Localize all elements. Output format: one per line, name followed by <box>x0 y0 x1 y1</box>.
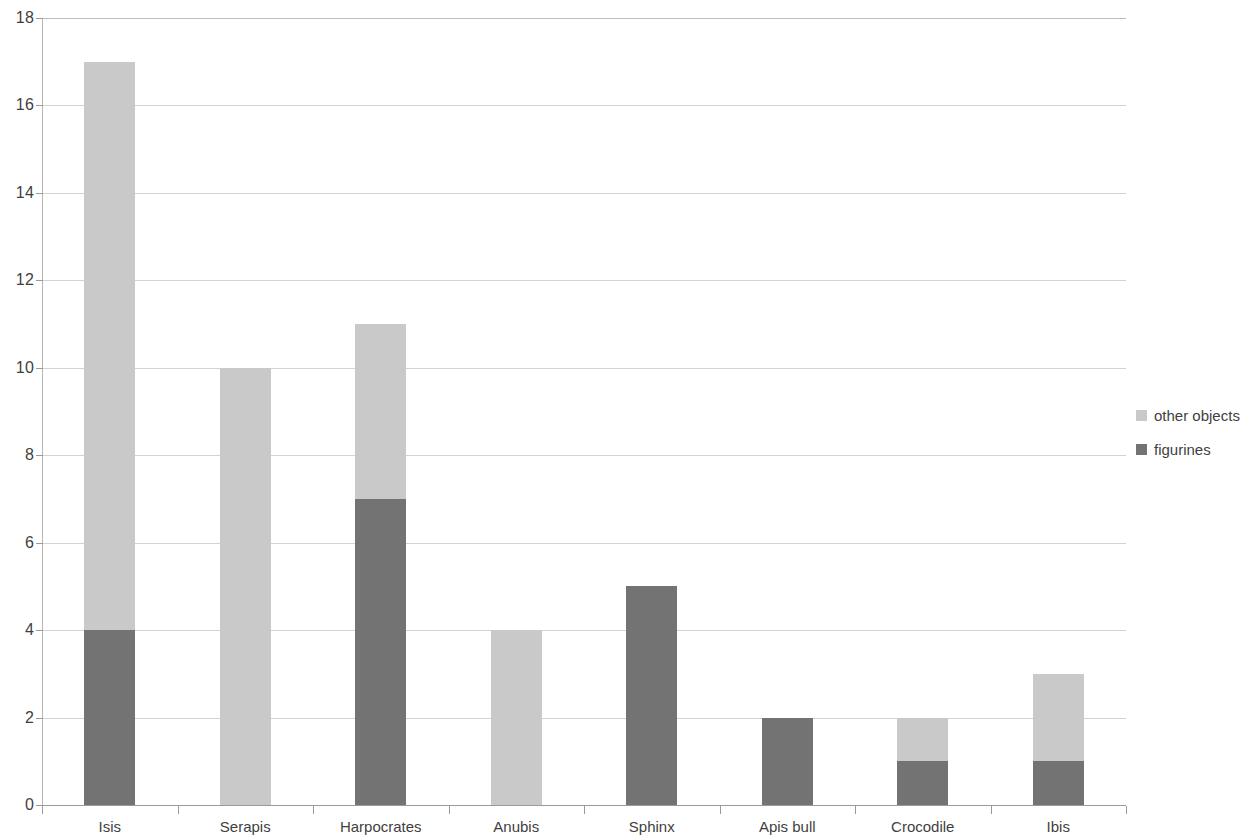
x-axis-tick-label-sphinx: Sphinx <box>629 818 675 835</box>
bar-segment-figurines[interactable] <box>626 586 677 805</box>
x-axis-tick-mark <box>178 806 179 814</box>
gridline <box>42 718 1126 719</box>
x-axis-tick-label-crocodile: Crocodile <box>891 818 954 835</box>
y-axis-tick-label: 6 <box>2 535 34 551</box>
x-axis-tick-label-anubis: Anubis <box>493 818 539 835</box>
x-axis-tick-mark <box>1126 806 1127 814</box>
bar-segment-figurines[interactable] <box>1033 761 1084 805</box>
y-axis-tick-label: 0 <box>2 797 34 813</box>
legend-label: other objects <box>1154 407 1240 424</box>
legend-swatch-icon <box>1136 444 1147 455</box>
x-axis-tick-mark <box>720 806 721 814</box>
bar-segment-other-objects[interactable] <box>897 718 948 762</box>
stacked-bar-chart: 024681012141618 IsisSerapisHarpocratesAn… <box>0 0 1249 840</box>
bar-segment-other-objects[interactable] <box>84 62 135 630</box>
y-axis-tick-mark <box>36 368 43 369</box>
y-axis-tick-label: 10 <box>2 360 34 376</box>
gridline <box>42 630 1126 631</box>
y-axis-tick-label: 4 <box>2 622 34 638</box>
gridline <box>42 18 1126 19</box>
gridline <box>42 193 1126 194</box>
plot-area <box>42 18 1126 805</box>
bar-apis-bull[interactable] <box>762 18 813 805</box>
x-axis-tick-label-isis: Isis <box>99 818 122 835</box>
x-axis-tick-label-harpocrates: Harpocrates <box>340 818 422 835</box>
bar-harpocrates[interactable] <box>355 18 406 805</box>
bar-segment-other-objects[interactable] <box>1033 674 1084 761</box>
bar-sphinx[interactable] <box>626 18 677 805</box>
y-axis-tick-label: 18 <box>2 10 34 26</box>
bar-segment-other-objects[interactable] <box>355 324 406 499</box>
y-axis-tick-mark <box>36 18 43 19</box>
y-axis-tick-label: 16 <box>2 97 34 113</box>
bar-segment-figurines[interactable] <box>762 718 813 805</box>
y-axis-tick-label: 2 <box>2 710 34 726</box>
y-axis-tick-mark <box>36 280 43 281</box>
y-axis-tick-mark <box>36 630 43 631</box>
bar-segment-figurines[interactable] <box>897 761 948 805</box>
bar-segment-other-objects[interactable] <box>220 368 271 805</box>
gridline <box>42 368 1126 369</box>
bar-isis[interactable] <box>84 18 135 805</box>
legend-item-figurines[interactable]: figurines <box>1136 432 1246 466</box>
y-axis-tick-label: 12 <box>2 272 34 288</box>
gridline <box>42 455 1126 456</box>
x-axis-tick-mark <box>584 806 585 814</box>
bar-segment-figurines[interactable] <box>355 499 406 805</box>
bar-segment-other-objects[interactable] <box>491 630 542 805</box>
y-axis-tick-mark <box>36 543 43 544</box>
y-axis-tick-mark <box>36 105 43 106</box>
bar-serapis[interactable] <box>220 18 271 805</box>
gridline <box>42 280 1126 281</box>
y-axis-tick-labels: 024681012141618 <box>0 0 34 840</box>
y-axis-tick-mark <box>36 718 43 719</box>
chart-legend: other objectsfigurines <box>1136 398 1246 466</box>
y-axis-tick-mark <box>36 193 43 194</box>
gridline <box>42 543 1126 544</box>
y-axis-tick-mark <box>36 455 43 456</box>
y-axis-tick-label: 8 <box>2 447 34 463</box>
legend-item-other-objects[interactable]: other objects <box>1136 398 1246 432</box>
gridline <box>42 105 1126 106</box>
x-axis-tick-mark <box>313 806 314 814</box>
bar-segment-figurines[interactable] <box>84 630 135 805</box>
x-axis-tick-mark <box>449 806 450 814</box>
legend-label: figurines <box>1154 441 1211 458</box>
legend-swatch-icon <box>1136 410 1147 421</box>
y-axis-tick-mark <box>36 805 43 806</box>
x-axis-tick-label-apis-bull: Apis bull <box>759 818 816 835</box>
bar-anubis[interactable] <box>491 18 542 805</box>
x-axis-tick-label-ibis: Ibis <box>1047 818 1070 835</box>
x-axis-tick-label-serapis: Serapis <box>220 818 271 835</box>
x-axis-tick-mark <box>42 806 43 814</box>
bar-ibis[interactable] <box>1033 18 1084 805</box>
bar-crocodile[interactable] <box>897 18 948 805</box>
x-axis-tick-mark <box>855 806 856 814</box>
y-axis-tick-label: 14 <box>2 185 34 201</box>
x-axis-tick-mark <box>991 806 992 814</box>
